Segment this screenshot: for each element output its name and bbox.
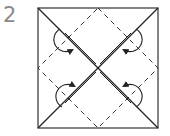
- diagonal-folds: [38, 8, 158, 128]
- origami-diagram: [0, 0, 170, 136]
- fold-arrow-bottom-left-icon: [56, 84, 74, 107]
